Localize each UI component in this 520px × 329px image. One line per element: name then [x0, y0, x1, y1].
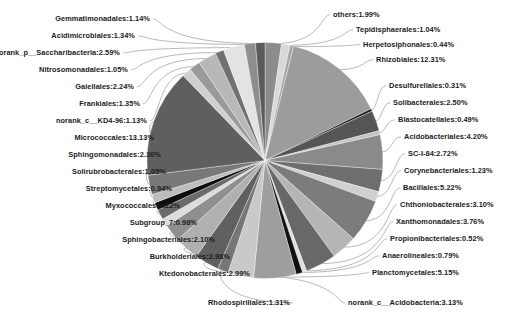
label-leader-line	[123, 48, 234, 53]
slice-label: Solibacterales:2.50%	[393, 98, 468, 107]
label-leader-line	[153, 19, 260, 44]
slice-label: Myxococcales:1.22%	[106, 201, 181, 210]
slice-label: Bacillales:5.22%	[403, 183, 462, 192]
slice-label: Nitrosomonadales:1.05%	[39, 65, 128, 74]
label-leader-line	[273, 15, 330, 44]
label-leader-line	[380, 154, 405, 181]
label-leader-line	[286, 30, 353, 46]
slice-label: Blastocatellales:0.49%	[398, 115, 479, 124]
slice-label: norank_p__Saccharibacteria:2.59%	[0, 48, 120, 57]
slice-label: Desulfurellales:0.31%	[389, 81, 466, 90]
slice-label: Ktedonobacterales:2.99%	[159, 269, 250, 278]
slice-label: Propionibacteriales:0.52%	[390, 234, 484, 243]
slice-label: Tepidisphaerales:1.04%	[356, 25, 441, 34]
label-leader-line	[382, 137, 401, 152]
slice-label: Sphingobacteriales:2.10%	[122, 235, 215, 244]
slice-label: Solirubrobacterales:1.05%	[72, 167, 166, 176]
slice-label: Gemmatimonadales:1.14%	[55, 14, 150, 23]
slice-label: Chthoniobacterales:3.10%	[400, 200, 494, 209]
slice-label: Burkholderiales:2.98%	[150, 252, 231, 261]
slice-label: Planctomycetales:5.15%	[372, 268, 459, 277]
slice-label: Corynebacteriales:1.23%	[404, 166, 493, 175]
slice-label: Herpetosiphonales:0.44%	[363, 40, 454, 49]
slice-label: Streptomycetales:0.94%	[86, 184, 173, 193]
label-leader-line	[339, 60, 373, 70]
figure-caption	[0, 320, 520, 329]
slice-label: others:1.99%	[333, 10, 380, 19]
slice-label: Sphingomonadales:2.36%	[68, 150, 161, 159]
slice-label: Micrococcales:13.13%	[75, 133, 155, 142]
slice-label: Acidimicrobiales:1.34%	[51, 31, 135, 40]
chart-canvas: others:1.99%Tepidisphaerales:1.04%Herpet…	[0, 0, 520, 329]
pie-chart-figure: others:1.99%Tepidisphaerales:1.04%Herpet…	[0, 0, 520, 329]
label-leader-line	[375, 103, 390, 121]
slice-label: Xanthomonadales:3.76%	[396, 217, 484, 226]
slice-label: Anaerolineales:0.79%	[382, 251, 459, 260]
label-leader-line	[379, 120, 395, 133]
slice-label: SC-I-84:2.72%	[408, 149, 458, 158]
slice-label: norank_c__Acidobacteria:3.13%	[348, 298, 463, 307]
label-leader-line	[371, 86, 386, 111]
slice-label: Acidobacteriales:4.20%	[404, 132, 488, 141]
slice-label: Rhizobiales:12.31%	[376, 55, 446, 64]
slice-label: Subgroup_7:0.98%	[130, 218, 198, 227]
slice-label: Gaiellales:2.24%	[75, 82, 134, 91]
slice-label: norank_c__KD4-96:1.13%	[56, 116, 147, 125]
slice-label: Frankiales:1.35%	[79, 99, 140, 108]
slice-label: Rhodospirillales:1.31%	[208, 298, 290, 307]
